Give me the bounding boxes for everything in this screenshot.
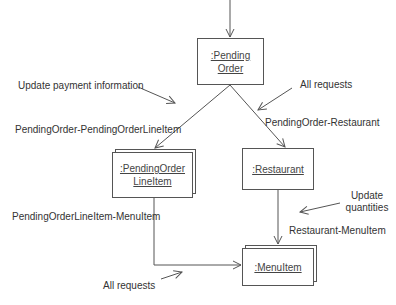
- object-label: :Pending: [211, 49, 250, 62]
- object-label: :MenuItem: [254, 261, 301, 274]
- message-all-requests-top: All requests: [300, 79, 352, 91]
- object-label: Order: [211, 62, 250, 75]
- message-update-quantities: Update quantities: [344, 190, 390, 214]
- message-line: Update: [344, 190, 390, 202]
- msg-arrow-all-requests-top: [258, 88, 292, 110]
- object-pending-order-line-item[interactable]: :PendingOrder LineItem: [112, 152, 193, 198]
- object-menu-item[interactable]: :MenuItem: [242, 248, 314, 286]
- object-label: :PendingOrder: [120, 162, 185, 175]
- object-label: :Restaurant: [252, 163, 304, 176]
- link-label-poli-menuitem: PendingOrderLineItem-MenuItem: [12, 211, 160, 223]
- link-label-restaurant-menuitem: Restaurant-MenuItem: [289, 225, 386, 237]
- link-poli-menuitem: [154, 197, 241, 265]
- msg-arrow-all-requests-bottom: [161, 272, 182, 279]
- object-label: LineItem: [120, 175, 185, 188]
- message-line: quantities: [344, 202, 390, 214]
- link-label-po-poli: PendingOrder-PendingOrderLineItem: [15, 124, 181, 136]
- message-update-payment: Update payment information: [18, 80, 144, 92]
- object-pending-order[interactable]: :Pending Order: [197, 38, 264, 85]
- link-label-po-restaurant: PendingOrder-Restaurant: [265, 117, 380, 129]
- message-all-requests-bottom: All requests: [103, 280, 155, 292]
- link-po-restaurant: [230, 85, 285, 147]
- msg-arrow-update-quantities: [300, 203, 340, 212]
- object-restaurant[interactable]: :Restaurant: [242, 148, 314, 190]
- collaboration-diagram: :Pending Order :PendingOrder LineItem :R…: [0, 0, 396, 305]
- link-po-poli: [155, 85, 230, 148]
